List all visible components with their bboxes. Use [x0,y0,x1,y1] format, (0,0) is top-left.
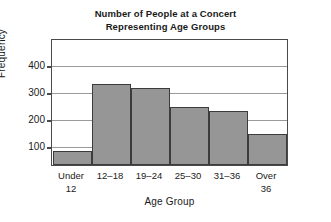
x-tick-label-31-36: 31–36 [207,170,247,183]
x-tick-label-12-18: 12–18 [90,170,130,183]
x-tick-label-under-12-line-1: Under [58,170,84,181]
x-tick-label-25-30: 25–30 [168,170,208,183]
x-tick-label-under-12: Under 12 [51,170,91,195]
x-tick-label-31-36-line-1: 31–36 [214,170,240,181]
bar-31-36 [209,111,248,165]
x-tick-label-19-24-line-1: 19–24 [136,170,162,181]
x-tick-label-12-18-line-1: 12–18 [97,170,123,181]
y-tick-label-200: 200 [11,115,45,125]
y-axis-title: Frequency [0,29,7,78]
x-tick-label-under-12-line-2: 12 [51,183,91,196]
bar-under-12 [53,151,92,165]
x-tick-label-19-24: 19–24 [129,170,169,183]
x-axis-title: Age Group [51,196,288,207]
y-tick-label-300: 300 [11,88,45,98]
bar-chart: Number of People at a Concert Representi… [0,0,331,222]
chart-title: Number of People at a Concert Representi… [0,8,331,33]
bars-layer [52,40,287,165]
bar-over-36 [248,134,287,165]
x-tick-label-over-36: Over 36 [246,170,286,195]
y-tick-label-100: 100 [11,142,45,152]
chart-title-line-1: Number of People at a Concert [0,8,331,21]
chart-title-line-2: Representing Age Groups [0,21,331,34]
x-tick-label-over-36-line-2: 36 [246,183,286,196]
x-tick-label-25-30-line-1: 25–30 [175,170,201,181]
plot-area [51,39,288,166]
bar-12-18 [92,84,131,165]
x-tick-label-over-36-line-1: Over [256,170,277,181]
bar-19-24 [131,88,170,165]
y-tick-label-400: 400 [11,61,45,71]
bar-25-30 [170,107,209,165]
